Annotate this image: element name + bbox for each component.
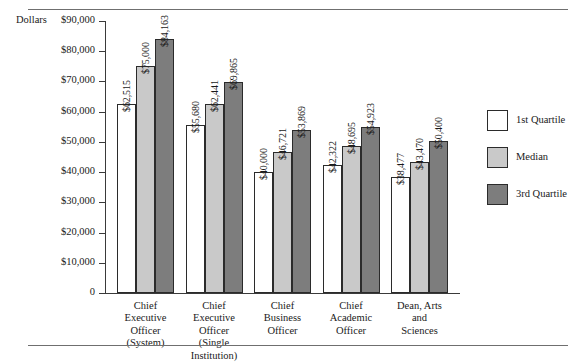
bar (342, 146, 361, 293)
bar (136, 66, 155, 293)
plot-area: $62,515$75,000$84,163$55,680$62,441$69,8… (105, 21, 460, 293)
category-label-line: Dean, Arts (377, 300, 463, 312)
bar (273, 152, 292, 293)
legend-swatch-white (487, 110, 508, 131)
bar-value-label: $62,515 (121, 80, 132, 112)
bar (361, 127, 380, 293)
y-axis-tick-label: $70,000 (31, 74, 95, 85)
bar (292, 130, 311, 293)
legend-swatch-light-gray (487, 147, 508, 168)
bar-value-label: $38,477 (395, 153, 406, 185)
y-axis-tick-label: $40,000 (31, 165, 95, 176)
bar-value-label: $75,000 (140, 43, 151, 75)
category-label-line: Institution) (171, 350, 257, 362)
top-rule (28, 9, 568, 10)
legend-label: Median (516, 151, 548, 162)
y-axis-tick (99, 112, 105, 113)
bar (391, 177, 410, 293)
bar (323, 165, 342, 293)
y-axis-tick (99, 263, 105, 264)
y-axis-tick (99, 202, 105, 203)
y-axis-line (105, 21, 106, 293)
category-label-line: and (377, 312, 463, 324)
bar-value-label: $42,322 (327, 141, 338, 173)
category-label-line: (Single (171, 337, 257, 349)
y-axis-tick-label: $30,000 (31, 195, 95, 206)
bar-value-label: $54,923 (365, 103, 376, 135)
y-axis-tick-label: $90,000 (31, 14, 95, 25)
y-axis-tick-label: $10,000 (31, 256, 95, 267)
bar (429, 141, 448, 293)
bar (224, 82, 243, 293)
x-axis-line (105, 293, 460, 294)
bar (410, 162, 429, 293)
y-axis-tick (99, 233, 105, 234)
y-axis-tick-label: $50,000 (31, 135, 95, 146)
bar-value-label: $69,865 (228, 58, 239, 90)
legend-label: 1st Quartile (516, 114, 565, 125)
bar-value-label: $53,869 (296, 106, 307, 138)
y-axis-tick (99, 51, 105, 52)
bar-value-label: $46,721 (277, 128, 288, 160)
y-axis-tick (99, 81, 105, 82)
bar-value-label: $50,400 (433, 117, 444, 149)
bar-value-label: $84,163 (159, 15, 170, 47)
y-axis-tick-label: $20,000 (31, 226, 95, 237)
y-axis-tick-label: $60,000 (31, 105, 95, 116)
bar (155, 39, 174, 293)
bar-value-label: $62,441 (209, 80, 220, 112)
cropped-title (32, 0, 332, 6)
x-axis-category-label: Dean, ArtsandSciences (377, 300, 463, 337)
bar (254, 172, 273, 293)
y-axis-tick (99, 142, 105, 143)
y-axis-tick-label: 0 (31, 286, 95, 297)
y-axis-tick-label: $80,000 (31, 44, 95, 55)
bar-value-label: $48,695 (346, 122, 357, 154)
bar-value-label: $43,470 (414, 138, 425, 170)
y-axis-tick (99, 21, 105, 22)
y-axis-tick (99, 293, 105, 294)
bar (117, 104, 136, 293)
legend-swatch-dark-gray (487, 184, 508, 205)
bar (186, 125, 205, 293)
category-label-line: Sciences (377, 325, 463, 337)
legend-label: 3rd Quartile (516, 188, 567, 199)
legend-item: 3rd Quartile (487, 184, 577, 206)
y-axis-tick (99, 172, 105, 173)
bar-value-label: $40,000 (258, 148, 269, 180)
bottom-rule (28, 345, 568, 346)
legend-item: Median (487, 147, 577, 169)
chart-legend: 1st QuartileMedian3rd Quartile (487, 110, 577, 221)
bar-value-label: $55,680 (190, 101, 201, 133)
bar (205, 104, 224, 293)
legend-item: 1st Quartile (487, 110, 577, 132)
